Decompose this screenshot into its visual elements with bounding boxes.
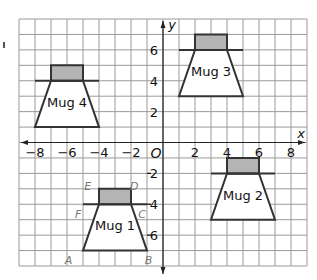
mug-label: Mug 1 [95, 218, 135, 233]
vertex-label: B [145, 254, 153, 267]
y-tick-label: 6 [150, 228, 158, 243]
x-tick-label: 4 [223, 145, 231, 160]
x-tick-label: −2 [121, 145, 140, 160]
vertex-label: A [64, 254, 73, 267]
y-tick-label: 4 [150, 74, 158, 89]
y-tick-label: 2 [150, 105, 158, 120]
y-axis-arrow-down [161, 267, 166, 274]
mug-lid [227, 158, 259, 173]
mug-label: Mug 4 [47, 95, 87, 110]
mug-lid [195, 34, 227, 49]
x-axis-arrow-right [298, 140, 305, 145]
mug-lid [99, 189, 131, 204]
x-tick-label: −6 [57, 145, 76, 160]
origin-label: O [150, 145, 161, 161]
x-tick-label: 2 [191, 145, 199, 160]
x-axis-label: x [296, 126, 305, 141]
vertex-label: C [138, 208, 146, 221]
x-tick-label: −4 [89, 145, 108, 160]
x-tick-label: 8 [287, 145, 295, 160]
x-tick-label: −8 [25, 145, 44, 160]
coordinate-plane: Mug 1ABCDEFMug 2Mug 3Mug 4xyO−8−6−4−2246… [0, 0, 317, 280]
y-tick-label: 4 [150, 197, 158, 212]
y-tick-label: 6 [150, 43, 158, 58]
vertex-label: E [84, 180, 91, 193]
mug-label: Mug 3 [191, 64, 231, 79]
y-tick-label: 2 [150, 166, 158, 181]
x-tick-label: 6 [255, 145, 263, 160]
mug-label: Mug 2 [223, 188, 263, 203]
y-axis-label: y [167, 17, 176, 32]
vertex-label: D [130, 180, 138, 193]
mug-lid [51, 65, 83, 80]
y-axis-arrow-up [161, 21, 166, 28]
vertex-label: F [75, 208, 82, 221]
